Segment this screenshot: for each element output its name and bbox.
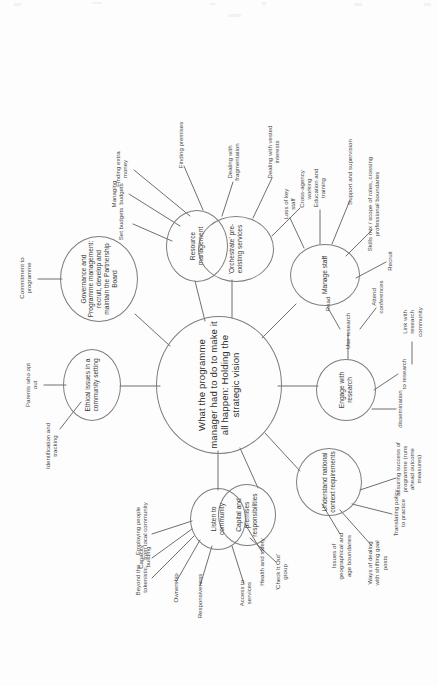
leaf-label: Dealing with fragmentation xyxy=(226,136,240,188)
branch-node-national-context[interactable]: Understand national context requirements xyxy=(296,448,362,516)
leaf-commitment-programme: Commitment to programme xyxy=(14,250,36,306)
leaf-label: Read xyxy=(324,297,331,312)
leaf-link-research-community: Link with research community xyxy=(400,298,424,346)
connector-central-capital xyxy=(240,448,258,488)
leaf-label: Education and training xyxy=(312,164,326,212)
leaf-geographical-age-boundaries: Issues of geographical and age boundarie… xyxy=(330,528,352,584)
branch-label-governance: Governance and Programme management: rec… xyxy=(80,239,119,319)
leaf-label: Access to services xyxy=(238,572,252,614)
leaf-label: Attend conferences xyxy=(370,274,384,320)
leaf-check-it-out-group: 'Check It Out' group xyxy=(270,550,292,594)
leaf-health-and-safety: Health and safety xyxy=(254,538,270,586)
leaf-label: Responsiveness xyxy=(196,574,203,619)
leaf-responsiveness: Responsiveness xyxy=(192,572,208,620)
leaf-label: Dealing with vested interests xyxy=(266,124,280,180)
branch-label-manage-staff: Manage staff xyxy=(321,256,329,294)
branch-label-ethical: Ethical issues in a community setting xyxy=(84,352,100,418)
leaf-loss-of-key-staff: Loss of key staff xyxy=(278,184,300,224)
leaf-label: Skills mix / scope of roles, crossing pr… xyxy=(366,152,380,256)
leaf-label: to research xyxy=(400,359,407,389)
branch-label-listen-community: Listen to community xyxy=(210,491,226,547)
leaf-label: Link with research community xyxy=(401,298,423,346)
leaf-shifting-goal-posts: Ways of dealing with shifting goal posts xyxy=(366,536,388,590)
connector-central-resource xyxy=(195,281,205,321)
leaf-label: Ownership xyxy=(172,573,179,602)
branch-node-ethical[interactable]: Ethical issues in a community setting xyxy=(63,349,121,421)
leaf-label: Recruit xyxy=(386,251,393,270)
leaf-identification-tracking: Identification and tracking xyxy=(40,420,62,472)
leaf-use-research: Use research xyxy=(340,310,356,352)
branch-node-orchestrate[interactable]: 'Orchestrate' pre-existing services xyxy=(198,216,274,282)
central-node[interactable]: What the programme manager had to do to … xyxy=(156,316,282,454)
mindmap-rotor: What the programme manager had to do to … xyxy=(0,0,438,686)
leaf-label: Loss of key staff xyxy=(282,184,296,224)
connector-central-national-context xyxy=(265,433,300,471)
leaf-label: Finding premises xyxy=(177,122,184,168)
connector-listen-employing xyxy=(152,521,192,534)
branch-label-engage-research: Engage with research xyxy=(338,362,354,418)
branch-label-orchestrate: 'Orchestrate' pre-existing services xyxy=(228,219,244,279)
leaf-access-to-services: Access to services xyxy=(234,572,256,614)
leaf-label: Finding extra money xyxy=(114,146,128,192)
leaf-attend-conferences: Attend conferences xyxy=(366,274,388,320)
connector-central-manage-staff xyxy=(262,304,296,338)
leaf-skills-mix-roles: Skills mix / scope of roles, crossing pr… xyxy=(362,152,384,256)
leaf-to-research: to research xyxy=(396,352,412,396)
central-node-label: What the programme manager had to do to … xyxy=(196,319,241,451)
leaf-label: 'Check It Out' group xyxy=(274,550,288,594)
connector-resource-managing-budgets xyxy=(129,194,180,226)
leaf-dealing-vested-interests: Dealing with vested interests xyxy=(262,124,284,180)
branch-label-national-context: Understand national context requirements xyxy=(321,451,337,513)
mindmap-canvas: What the programme manager had to do to … xyxy=(0,0,438,686)
leaf-label: Parents who opt out xyxy=(24,360,38,410)
leaf-support-supervision: Support and supervision xyxy=(342,136,358,208)
leaf-finding-extra-money: Finding extra money xyxy=(110,146,132,192)
leaf-label: Identification and tracking xyxy=(44,420,58,472)
leaf-assuring-success: assuring success of programme (runs ahea… xyxy=(392,440,424,498)
leaf-parents-opt-out: Parents who opt out xyxy=(20,360,42,410)
leaf-label: Support and supervision xyxy=(346,139,353,205)
leaf-read: Read xyxy=(320,290,336,318)
leaf-label: Issues of geographical and age boundarie… xyxy=(330,528,352,584)
leaf-education-training: Education and training xyxy=(308,164,330,212)
leaf-label: Ways of dealing with shifting goal posts xyxy=(366,536,388,590)
branch-node-listen-community[interactable]: Listen to community xyxy=(190,488,246,550)
connector-orchestrate-vested xyxy=(253,178,272,218)
leaf-label: Commitment to programme xyxy=(18,250,32,306)
leaf-finding-premises: Finding premises xyxy=(172,116,190,174)
leaf-dealing-fragmentation: Dealing with fragmentation xyxy=(222,136,244,188)
leaf-label: Health and safety xyxy=(258,538,265,585)
connector-central-governance xyxy=(135,314,170,346)
leaf-label: Employing people from local community xyxy=(134,502,148,560)
branch-node-engage-research[interactable]: Engage with research xyxy=(316,359,376,421)
leaf-label: Use research xyxy=(344,313,351,349)
connector-context-policy xyxy=(352,504,392,514)
leaf-ownership: Ownership xyxy=(168,566,184,610)
leaf-employing-people-local: Employing people from local community xyxy=(130,502,152,560)
leaf-label: assuring success of programme (runs ahea… xyxy=(394,440,423,498)
connector-resource-extra-money xyxy=(134,170,190,216)
